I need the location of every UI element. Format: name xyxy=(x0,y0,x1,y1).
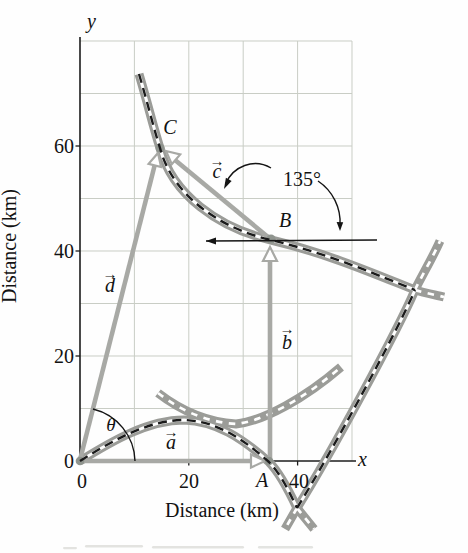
y-tick-60: 60 xyxy=(54,135,74,157)
vector-d-label: → d xyxy=(103,266,118,296)
angle-135-arrow-left xyxy=(224,164,271,189)
x-axis-title: Distance (km) xyxy=(165,499,279,522)
vector-d-arrowhead xyxy=(149,153,162,167)
vector-c-label: → c xyxy=(210,153,225,182)
vector-b-label-letter: b xyxy=(282,331,292,353)
point-label-B: B xyxy=(279,209,291,231)
vector-d xyxy=(80,164,155,460)
vector-a-label: → a xyxy=(164,424,179,453)
x-tick-0: 0 xyxy=(77,470,87,492)
x-tick-40: 40 xyxy=(289,470,309,492)
point-label-C: C xyxy=(163,116,177,138)
vector-a-label-letter: a xyxy=(166,431,176,453)
y-tick-0: 0 xyxy=(64,450,74,472)
vector-b-arrowhead xyxy=(263,247,277,261)
x-axis-letter: x xyxy=(357,448,367,470)
point-label-A: A xyxy=(254,469,269,491)
vector-diagram-figure: y x 0 20 40 60 0 20 40 A B C 135° θ → a … xyxy=(0,0,468,553)
angle-135-label: 135° xyxy=(283,168,321,190)
road-curved-decorative xyxy=(158,367,341,424)
y-axis-title: Distance (km) xyxy=(0,189,21,303)
angle-135-arrow-right xyxy=(318,181,343,231)
angle-theta-label: θ xyxy=(106,414,115,435)
vector-b-label: → b xyxy=(280,321,295,353)
vector-d-label-letter: d xyxy=(105,274,116,296)
x-tick-20: 20 xyxy=(179,470,199,492)
y-tick-20: 20 xyxy=(54,345,74,367)
cropped-caption-smudge xyxy=(63,545,313,549)
y-axis-letter: y xyxy=(85,10,96,33)
y-tick-40: 40 xyxy=(54,240,74,262)
figure-canvas: y x 0 20 40 60 0 20 40 A B C 135° θ → a … xyxy=(0,0,468,553)
vector-c-label-letter: c xyxy=(213,160,222,182)
reference-line-left-arrowhead xyxy=(206,238,216,245)
